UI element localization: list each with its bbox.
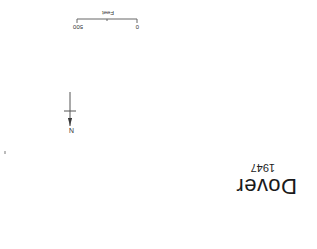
scale-unit: Feet <box>102 10 114 16</box>
north-arrow-icon <box>62 88 78 128</box>
north-label: N <box>69 127 74 134</box>
scale-tick-0: 0 <box>136 24 139 30</box>
edge-mark <box>4 151 6 154</box>
map-sheet: Dover 1947 N 0 500 Feet <box>0 0 317 249</box>
map-title: Dover <box>236 175 297 197</box>
north-arrow: N <box>62 88 78 134</box>
scale-bar: 0 500 Feet <box>73 2 139 30</box>
scale-bar-line <box>73 16 139 24</box>
map-year: 1947 <box>251 162 275 173</box>
scale-tick-500: 500 <box>73 24 83 30</box>
